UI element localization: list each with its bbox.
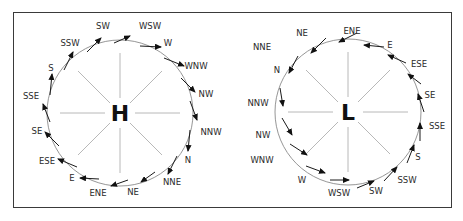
high-label-nne: NNE bbox=[163, 177, 181, 187]
low-label-n: N bbox=[274, 65, 280, 75]
low-label-ese: ESE bbox=[411, 59, 427, 69]
low-label-wsw: WSW bbox=[328, 188, 351, 198]
high-label-n: N bbox=[185, 155, 191, 165]
pressure-wind-diagram: H SW WSW W WNW NW NNW N bbox=[0, 0, 463, 221]
high-label-wnw: WNW bbox=[184, 61, 208, 71]
high-label-nw: NW bbox=[199, 89, 214, 99]
high-center-label: H bbox=[111, 101, 129, 126]
low-label-se: SE bbox=[425, 90, 436, 100]
low-pressure-system: L NE ENE E ESE SE SSE S bbox=[247, 26, 445, 198]
high-label-e: E bbox=[69, 173, 74, 183]
high-label-nnw: NNW bbox=[200, 127, 222, 137]
high-label-ssw: SSW bbox=[60, 38, 80, 48]
low-label-e: E bbox=[387, 40, 392, 50]
low-center-label: L bbox=[341, 100, 355, 125]
low-label-ene: ENE bbox=[343, 26, 360, 36]
high-label-ene: ENE bbox=[89, 188, 106, 198]
low-label-nne: NNE bbox=[253, 42, 271, 52]
high-label-se: SE bbox=[32, 126, 43, 136]
high-label-ese: ESE bbox=[39, 156, 55, 166]
high-label-wsw: WSW bbox=[139, 21, 162, 31]
high-label-sw: SW bbox=[96, 21, 110, 31]
low-label-nw: NW bbox=[256, 130, 271, 140]
high-label-ne: NE bbox=[127, 187, 139, 197]
low-label-ne: NE bbox=[296, 28, 308, 38]
high-pressure-system: H SW WSW W WNW NW NNW N bbox=[23, 21, 222, 198]
low-label-nnw: NNW bbox=[247, 98, 269, 108]
low-label-ssw: SSW bbox=[397, 175, 417, 185]
high-label-w: W bbox=[164, 38, 173, 48]
low-label-wnw: WNW bbox=[250, 155, 274, 165]
low-label-sse: SSE bbox=[429, 121, 445, 131]
high-label-s: S bbox=[48, 63, 53, 73]
low-label-w: W bbox=[298, 175, 307, 185]
low-label-sw: SW bbox=[369, 186, 383, 196]
low-label-s: S bbox=[415, 152, 420, 162]
high-label-sse: SSE bbox=[23, 91, 39, 101]
